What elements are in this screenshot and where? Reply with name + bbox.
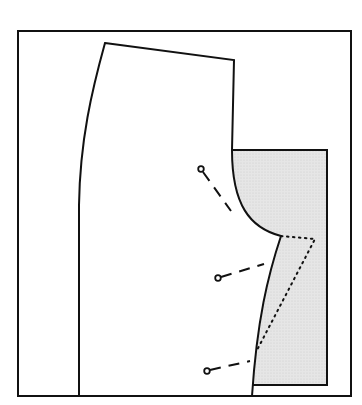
pattern-piece-outline	[79, 43, 281, 396]
pattern-diagram	[0, 0, 362, 405]
diagram-canvas: Pattern piece pinned to shaded fabric/pa…	[0, 0, 362, 405]
